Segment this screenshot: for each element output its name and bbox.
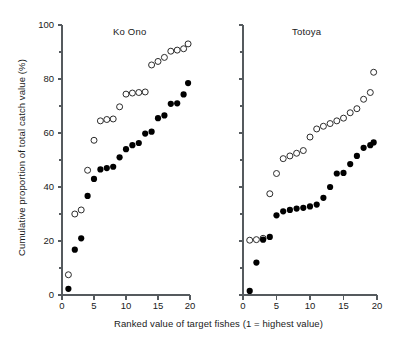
data-point-filled	[280, 208, 286, 214]
data-point-filled	[142, 130, 148, 136]
data-point-filled	[260, 237, 266, 243]
data-point-open	[149, 62, 155, 68]
data-point-open	[280, 156, 286, 162]
data-point-open	[247, 237, 253, 243]
data-point-open	[253, 237, 259, 243]
data-point-open	[361, 96, 367, 102]
data-point-filled	[294, 206, 300, 212]
data-point-open	[354, 106, 360, 112]
data-point-open	[294, 150, 300, 156]
data-point-open	[168, 48, 174, 54]
data-point-filled	[155, 115, 161, 121]
data-point-filled	[123, 146, 129, 152]
figure-container: Cumulative proportion of total catch val…	[0, 0, 397, 338]
data-point-filled	[185, 80, 191, 86]
scatter-plot-canvas	[0, 0, 397, 338]
data-point-open	[129, 90, 135, 96]
data-point-open	[78, 207, 84, 213]
data-point-open	[185, 41, 191, 47]
data-point-filled	[104, 165, 110, 171]
data-point-open	[267, 191, 273, 197]
data-point-open	[300, 148, 306, 154]
data-point-open	[320, 123, 326, 129]
data-point-filled	[174, 100, 180, 106]
data-point-open	[334, 118, 340, 124]
data-point-open	[314, 126, 320, 132]
data-point-filled	[110, 164, 116, 170]
data-point-filled	[253, 260, 259, 266]
data-point-filled	[320, 195, 326, 201]
data-point-open	[347, 110, 353, 116]
panel-axis-frame	[243, 25, 377, 295]
data-point-filled	[91, 176, 97, 182]
data-point-open	[142, 89, 148, 95]
data-point-filled	[78, 235, 84, 241]
panel-axis-frame	[62, 25, 190, 295]
data-point-open	[91, 137, 97, 143]
data-point-filled	[300, 205, 306, 211]
data-point-open	[123, 91, 129, 97]
data-point-open	[117, 104, 123, 110]
data-point-open	[307, 134, 313, 140]
data-point-filled	[327, 184, 333, 190]
data-point-filled	[273, 212, 279, 218]
data-point-filled	[247, 288, 253, 294]
data-point-filled	[334, 170, 340, 176]
data-point-open	[136, 90, 142, 96]
data-point-filled	[354, 153, 360, 159]
data-point-filled	[129, 142, 135, 148]
data-point-filled	[347, 161, 353, 167]
data-point-open	[367, 90, 373, 96]
data-point-open	[371, 69, 377, 75]
data-point-filled	[307, 203, 313, 209]
data-point-filled	[371, 139, 377, 145]
data-point-filled	[117, 154, 123, 160]
data-point-filled	[181, 91, 187, 97]
data-point-filled	[287, 207, 293, 213]
data-point-open	[155, 58, 161, 64]
data-point-open	[341, 115, 347, 121]
data-point-filled	[97, 166, 103, 172]
data-point-open	[181, 46, 187, 52]
data-point-open	[65, 272, 71, 278]
data-point-filled	[149, 129, 155, 135]
data-point-filled	[267, 234, 273, 240]
data-point-filled	[340, 170, 346, 176]
data-point-filled	[168, 101, 174, 107]
data-point-open	[274, 171, 280, 177]
data-point-open	[97, 118, 103, 124]
data-point-filled	[161, 112, 167, 118]
data-point-open	[72, 211, 78, 217]
data-point-open	[287, 153, 293, 159]
data-point-open	[110, 116, 116, 122]
data-point-filled	[72, 247, 78, 253]
data-point-filled	[136, 140, 142, 146]
data-point-open	[85, 167, 91, 173]
data-point-open	[327, 121, 333, 127]
data-point-filled	[361, 145, 367, 151]
data-point-filled	[314, 201, 320, 207]
data-point-open	[104, 117, 110, 123]
data-point-open	[161, 54, 167, 60]
data-point-filled	[85, 193, 91, 199]
data-point-open	[174, 47, 180, 53]
data-point-filled	[65, 286, 71, 292]
